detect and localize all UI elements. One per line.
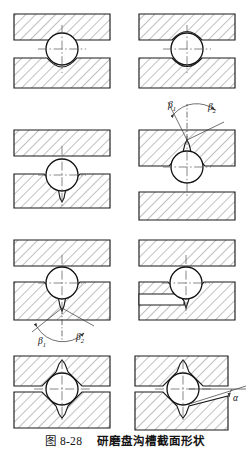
- figure-8-28-diagram: β1 β2 β1 β2: [0, 0, 250, 456]
- panel-7-row4-left: [14, 356, 110, 428]
- figure-number: 图 8-28: [45, 435, 82, 447]
- panel-6-upper-block: [139, 240, 235, 266]
- panel-4-lower-block: [139, 192, 235, 220]
- figure-title: 研磨盘沟槽截面形状: [97, 435, 205, 447]
- figure-caption: 图 8-28 研磨盘沟槽截面形状: [0, 432, 250, 448]
